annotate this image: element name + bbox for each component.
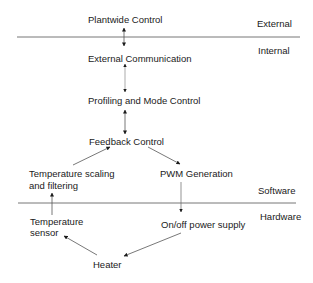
layer-label-external: External (257, 18, 292, 29)
node-temperature-scaling-line2: and filtering (29, 180, 78, 191)
arrow-feedback-pwm (148, 147, 180, 164)
node-profiling-mode-control: Profiling and Mode Control (88, 95, 200, 106)
node-plantwide-control: Plantwide Control (88, 14, 162, 25)
node-heater: Heater (93, 259, 122, 270)
node-temperature-sensor-line2: sensor (30, 227, 59, 238)
arrow-heater-tempsensor (64, 236, 97, 255)
layer-label-internal: Internal (258, 45, 290, 56)
node-temperature-scaling-line1: Temperature scaling (29, 168, 115, 179)
node-temperature-sensor-line1: Temperature (30, 216, 83, 227)
layer-label-software: Software (258, 185, 296, 196)
node-onoff-power-supply: On/off power supply (161, 219, 245, 230)
arrow-tempscaling-feedback (73, 147, 110, 165)
node-pwm-generation: PWM Generation (160, 168, 233, 179)
node-feedback-control: Feedback Control (89, 136, 164, 147)
layer-label-hardware: Hardware (260, 211, 301, 222)
arrow-powersupply-heater (124, 233, 181, 256)
node-external-communication: External Communication (88, 53, 192, 64)
